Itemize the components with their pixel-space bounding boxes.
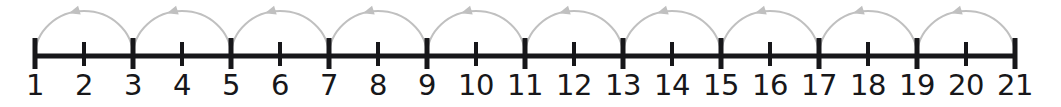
tick-label: 11 [507, 71, 543, 100]
number-line-figure: 123456789101112131415161718192021 [0, 0, 1061, 107]
jump-arrow-head-icon [754, 6, 767, 18]
jump-arrow-head-icon [852, 6, 865, 18]
tick-label: 9 [418, 71, 436, 100]
jump-arrow-head-icon [460, 6, 473, 18]
tick-label: 18 [850, 71, 886, 100]
jump-arrow-head-icon [264, 6, 277, 18]
jump-arrow-head-icon [68, 6, 81, 18]
jump-arrow-head-icon [656, 6, 669, 18]
tick-label: 7 [320, 71, 338, 100]
tick-label: 1 [26, 71, 44, 100]
tick-label: 5 [222, 71, 240, 100]
tick-label: 10 [458, 71, 494, 100]
tick-label: 2 [75, 71, 93, 100]
tick-label: 17 [801, 71, 837, 100]
jump-arrow-head-icon [166, 6, 179, 18]
tick-label: 12 [556, 71, 592, 100]
tick-label: 16 [752, 71, 788, 100]
tick-label: 4 [173, 71, 191, 100]
tick-label: 15 [703, 71, 739, 100]
tick-label: 20 [948, 71, 984, 100]
tick-label: 8 [369, 71, 387, 100]
tick-label: 19 [899, 71, 935, 100]
tick-marks-group [35, 38, 1015, 69]
tick-label: 21 [997, 71, 1033, 100]
tick-label: 6 [271, 71, 289, 100]
jump-arrow-head-icon [558, 6, 571, 18]
tick-label: 14 [654, 71, 690, 100]
jump-arrow-head-icon [950, 6, 963, 18]
tick-label: 3 [124, 71, 142, 100]
jump-arrow-head-icon [362, 6, 375, 18]
tick-label: 13 [605, 71, 641, 100]
